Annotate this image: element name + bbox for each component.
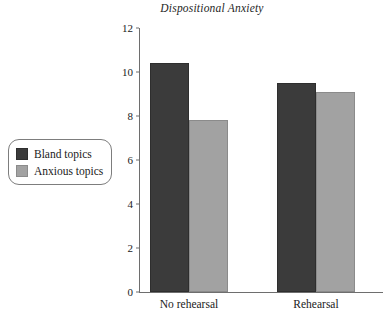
y-axis-tick-label: 12 <box>122 22 133 34</box>
y-axis-tick-label: 4 <box>128 198 134 210</box>
legend-item-bland-topics: Bland topics <box>16 145 104 162</box>
bar-rehearsal-bland-topics <box>277 83 316 292</box>
bar-rehearsal-anxious-topics <box>316 92 355 292</box>
x-axis-label-rehearsal: Rehearsal <box>293 298 338 310</box>
y-axis-tick-label: 0 <box>128 286 134 298</box>
bar-no-rehearsal-anxious-topics <box>189 120 228 292</box>
y-axis-tick-label: 6 <box>128 154 134 166</box>
y-axis-tick-label: 8 <box>128 110 134 122</box>
legend-swatch-icon-anxious <box>16 165 28 177</box>
y-axis-tick-mark <box>136 116 139 117</box>
y-axis-tick-label: 2 <box>128 242 134 254</box>
x-axis-label-no-rehearsal: No rehearsal <box>160 298 218 310</box>
plot-area: 024681012 No rehearsalRehearsal <box>139 28 383 293</box>
x-axis-line <box>139 292 383 293</box>
y-axis-tick-mark <box>136 160 139 161</box>
y-axis-tick-mark <box>136 72 139 73</box>
chart-legend: Bland topics Anxious topics <box>8 139 112 185</box>
chart-figure: Dispositional Anxiety 024681012 No rehea… <box>0 0 384 325</box>
legend-swatch-icon-bland <box>16 148 28 160</box>
y-axis-tick-mark <box>136 292 139 293</box>
legend-label-anxious: Anxious topics <box>34 165 103 177</box>
y-axis-tick-mark <box>136 248 139 249</box>
legend-item-anxious-topics: Anxious topics <box>16 162 104 179</box>
y-axis-line <box>139 28 140 293</box>
y-axis-tick-mark <box>136 28 139 29</box>
chart-title-text: Dispositional Anxiety <box>160 2 263 14</box>
y-axis-tick-mark <box>136 204 139 205</box>
y-axis-tick-label: 10 <box>122 66 133 78</box>
legend-label-bland: Bland topics <box>34 148 92 160</box>
bar-no-rehearsal-bland-topics <box>150 63 189 292</box>
chart-title: Dispositional Anxiety <box>0 2 384 14</box>
